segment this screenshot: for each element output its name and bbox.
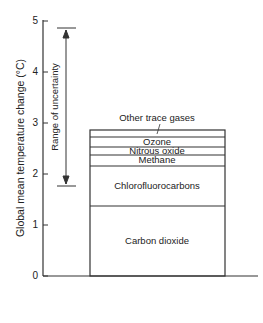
svg-text:1: 1 <box>32 219 38 230</box>
stacked-bar-chart: 0 1 2 3 4 5 Global mean temperature chan… <box>0 0 263 323</box>
label-cfc: Chlorofluorocarbons <box>114 180 200 191</box>
svg-text:5: 5 <box>32 15 38 26</box>
svg-text:4: 4 <box>32 66 38 77</box>
y-ticks <box>43 21 48 276</box>
label-co2: Carbon dioxide <box>125 235 189 246</box>
label-other-trace-gases: Other trace gases <box>119 112 195 123</box>
other-gases-pointer <box>157 124 160 134</box>
svg-text:0: 0 <box>32 270 38 281</box>
uncertainty-label: Range of uncertainty <box>49 63 60 151</box>
svg-text:3: 3 <box>32 117 38 128</box>
segment-labels: Other trace gases Ozone Nitrous oxide Me… <box>114 112 200 246</box>
y-tick-labels: 0 1 2 3 4 5 <box>32 15 38 281</box>
svg-text:2: 2 <box>32 168 38 179</box>
label-methane: Methane <box>139 154 176 165</box>
y-axis-label: Global mean temperature change (°C) <box>14 59 26 237</box>
